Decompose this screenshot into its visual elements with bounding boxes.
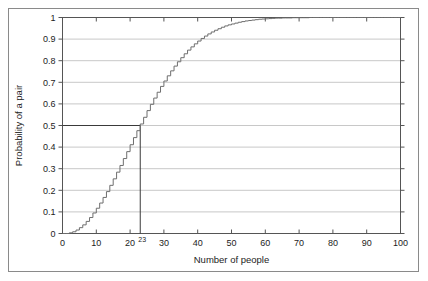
y-axis-tick-labels: 00.10.20.30.40.50.60.70.80.91 <box>43 13 56 239</box>
x-axis-title: Number of people <box>194 254 270 265</box>
y-tick-label: 0.8 <box>43 56 56 66</box>
probability-line-chart: 0102030405060708090100 00.10.20.30.40.50… <box>0 0 428 281</box>
x-tick-label: 60 <box>260 238 270 248</box>
x-tick-label: 30 <box>159 238 169 248</box>
x-tick-label: 100 <box>393 238 408 248</box>
y-tick-label: 0.6 <box>43 99 56 109</box>
x-tick-label: 90 <box>362 238 372 248</box>
y-tick-label: 0.9 <box>43 34 56 44</box>
y-tick-label: 0.1 <box>43 207 56 217</box>
y-tick-label: 0.3 <box>43 164 56 174</box>
x-tick-label: 20 <box>125 238 135 248</box>
annotation-23-label: 23 <box>138 236 146 243</box>
x-tick-label: 10 <box>91 238 101 248</box>
x-axis-tick-labels: 0102030405060708090100 <box>60 238 408 248</box>
y-axis-title: Probability of a pair <box>13 85 24 166</box>
y-tick-label: 0.7 <box>43 78 56 88</box>
x-tick-label: 40 <box>193 238 203 248</box>
x-tick-label: 50 <box>226 238 236 248</box>
y-tick-label: 0.5 <box>43 121 56 131</box>
x-tick-label: 70 <box>294 238 304 248</box>
x-tick-label: 80 <box>328 238 338 248</box>
x-tick-label: 0 <box>60 238 65 248</box>
y-tick-label: 1 <box>50 13 55 23</box>
y-tick-label: 0 <box>50 229 55 239</box>
chart-figure: 0102030405060708090100 00.10.20.30.40.50… <box>0 0 428 281</box>
y-tick-label: 0.4 <box>43 142 56 152</box>
half-probability-guides <box>63 126 141 234</box>
y-tick-label: 0.2 <box>43 186 56 196</box>
